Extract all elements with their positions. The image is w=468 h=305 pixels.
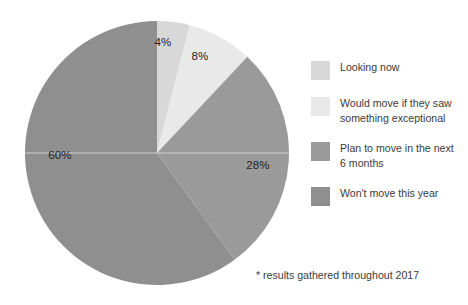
footnote-text: * results gathered throughout 2017 — [256, 268, 419, 282]
legend-item[interactable]: Plan to move in the next 6 months — [311, 141, 468, 170]
pie-slice-label: 8% — [192, 50, 209, 62]
chart-legend: Looking nowWould move if they saw someth… — [311, 60, 468, 206]
legend-item-label: Looking now — [340, 60, 400, 75]
pie-slice-label: 28% — [246, 159, 269, 171]
legend-item[interactable]: Won't move this year — [311, 186, 468, 206]
pie-slice-label: 60% — [48, 149, 71, 161]
legend-item-label: Plan to move in the next 6 months — [340, 141, 454, 170]
pie-chart: 4%8%28%60% — [25, 21, 289, 285]
legend-item[interactable]: Would move if they saw something excepti… — [311, 96, 468, 125]
legend-color-swatch — [311, 142, 330, 161]
pie-slice-label: 4% — [155, 36, 172, 48]
legend-item-label: Would move if they saw something excepti… — [340, 96, 452, 125]
chart-canvas: 4%8%28%60% Looking nowWould move if they… — [0, 0, 468, 305]
legend-color-swatch — [311, 61, 330, 80]
legend-color-swatch — [311, 97, 330, 116]
legend-item-label: Won't move this year — [340, 186, 438, 201]
legend-color-swatch — [311, 187, 330, 206]
legend-item[interactable]: Looking now — [311, 60, 468, 80]
